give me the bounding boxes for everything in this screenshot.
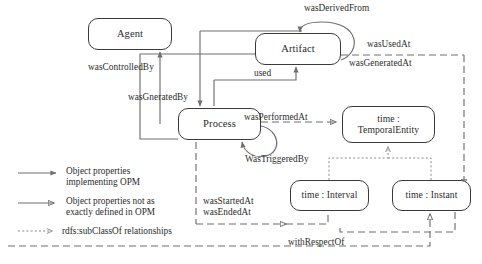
node-temporal-entity-label-line2: TemporalEntity <box>358 125 419 136</box>
node-artifact[interactable]: Artifact <box>255 33 341 65</box>
node-temporal-entity[interactable]: time : TemporalEntity <box>342 106 435 143</box>
edge-label-was-generated-at: wasGeneratedAt <box>349 58 412 68</box>
edge-label-was-used-at: wasUsedAt <box>367 39 410 49</box>
legend-item-open-line1: Object properties not as <box>66 196 155 207</box>
node-agent-label: Agent <box>117 28 143 40</box>
edge-subclass-interval <box>329 147 388 180</box>
node-time-instant-label: time : Instant <box>405 190 457 201</box>
legend-item-solid-line1: Object properties <box>66 166 140 177</box>
edge-subclass-instant <box>388 158 431 180</box>
legend-item-open: Object properties not as exactly defined… <box>66 196 155 219</box>
node-agent[interactable]: Agent <box>88 18 172 50</box>
legend-item-dotted-line1: rdfs:subClassOf relationships <box>62 226 172 237</box>
node-temporal-entity-label-line1: time : <box>377 114 400 125</box>
legend-item-dotted: rdfs:subClassOf relationships <box>62 226 172 237</box>
node-process-label: Process <box>203 118 236 130</box>
edge-label-was-started-at: wasStartedAt <box>203 196 254 206</box>
edge-label-was-controlled-by: wasControlledBy <box>88 62 154 72</box>
legend-item-solid-line2: implementing OPM <box>66 177 140 188</box>
legend-item-solid: Object properties implementing OPM <box>66 166 140 189</box>
edge-label-with-respect-of: withRespectOf <box>288 237 344 247</box>
edge-to-interval-stub <box>286 212 328 224</box>
edge-label-was-triggered-by: WasTriggeredBy <box>245 154 309 164</box>
edge-instant-corner <box>340 212 455 232</box>
edge-label-was-ended-at: wasEndedAt <box>203 207 251 217</box>
node-time-instant[interactable]: time : Instant <box>392 180 471 211</box>
edge-label-used: used <box>254 68 271 78</box>
node-time-interval-label: time : Interval <box>302 190 358 201</box>
edge-label-was-performed-at: wasPerformedAt <box>244 112 308 122</box>
node-artifact-label: Artifact <box>281 43 314 55</box>
edge-label-was-derived-from: wasDerivedFrom <box>304 3 369 13</box>
legend-item-open-line2: exactly defined in OPM <box>66 207 155 218</box>
diagram-canvas: Agent Artifact Process time : TemporalEn… <box>0 0 482 264</box>
edge-label-was-gnerated-by: wasGneratedBy <box>128 92 188 102</box>
node-time-interval[interactable]: time : Interval <box>290 180 369 211</box>
